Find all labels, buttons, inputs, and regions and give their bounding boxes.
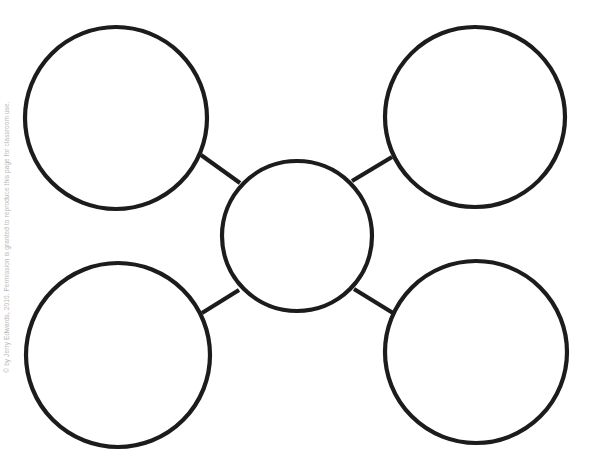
- outer-bubble-top-left: [25, 27, 207, 209]
- outer-bubble-top-right: [385, 27, 565, 207]
- connector-top-right: [352, 157, 392, 181]
- connector-bottom-left: [202, 290, 239, 313]
- copyright-notice: © by Jerry Edwards, 2010. Permission is …: [2, 2, 12, 472]
- outer-bubble-bottom-left: [26, 263, 210, 447]
- bubble-map-diagram: [0, 0, 592, 474]
- nodes: [25, 27, 567, 447]
- center-bubble: [222, 161, 372, 311]
- connector-top-left: [201, 155, 240, 183]
- outer-bubble-bottom-right: [385, 261, 567, 443]
- connector-bottom-right: [354, 289, 393, 313]
